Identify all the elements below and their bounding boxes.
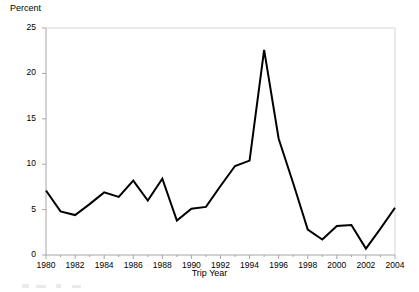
scan-artifact-3 [56,284,61,288]
chart-plot-area [0,0,419,292]
y-tick-label: 20 [10,68,36,77]
y-tick-label: 5 [10,205,36,214]
scan-artifact-1 [22,284,29,288]
y-tick-label: 10 [10,159,36,168]
y-tick-label: 0 [10,250,36,259]
scan-artifact-2 [36,285,46,288]
scan-artifact-4 [72,285,81,288]
x-axis-ticks [46,255,395,259]
x-axis-title: Trip Year [0,268,419,279]
data-series-percent [46,50,395,249]
axis-lines [46,28,395,255]
y-axis-ticks [42,28,46,255]
y-tick-label: 15 [10,114,36,123]
chart-container: Percent 0510152025 198019821984198619881… [0,0,419,292]
y-tick-label: 25 [10,23,36,32]
